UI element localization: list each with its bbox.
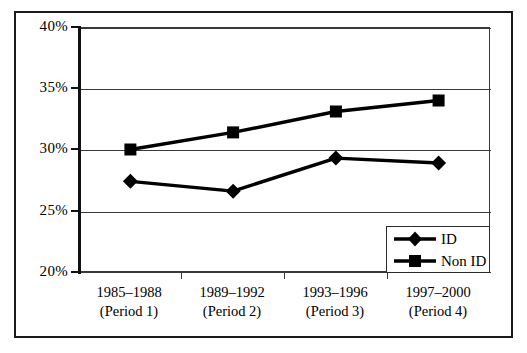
- y-axis-label-35: 35%: [8, 80, 68, 95]
- gridline-30: [80, 150, 491, 151]
- x-tick-1: [284, 272, 285, 279]
- chart-legend: ID Non ID: [386, 226, 490, 273]
- x-axis-label-period-4: 1997–2000 (Period 4): [373, 283, 503, 321]
- gridline-25: [80, 212, 491, 213]
- y-tick-20: [71, 271, 81, 273]
- y-tick-30: [71, 148, 81, 150]
- y-tick-35: [71, 87, 81, 89]
- legend-entry-id: ID: [387, 228, 491, 250]
- gridline-40: [80, 28, 491, 29]
- y-axis-label-40: 40%: [8, 19, 68, 34]
- legend-label-non-id: Non ID: [441, 252, 486, 270]
- x-tick-2: [387, 272, 388, 279]
- legend-marker-square-icon: [392, 250, 438, 272]
- x-label-line2: (Period 4): [373, 302, 503, 321]
- x-label-line1: 1989–1992: [199, 284, 264, 300]
- legend-entry-non-id: Non ID: [387, 250, 491, 272]
- gridline-35: [80, 89, 491, 90]
- legend-marker-diamond-icon: [392, 228, 438, 250]
- x-tick-0: [181, 272, 182, 279]
- legend-label-id: ID: [441, 230, 457, 248]
- x-label-line1: 1997–2000: [405, 284, 470, 300]
- y-axis-label-25: 25%: [8, 203, 68, 218]
- y-axis-line: [78, 26, 81, 274]
- x-label-line1: 1985–1988: [96, 284, 161, 300]
- y-axis-label-20: 20%: [8, 264, 68, 279]
- y-axis-label-30: 30%: [8, 141, 68, 156]
- y-tick-40: [71, 26, 81, 28]
- y-tick-25: [71, 210, 81, 212]
- chart-figure: 40% 35% 30% 25% 20% 1985–1988 (Period 1)…: [0, 0, 527, 353]
- x-label-line1: 1993–1996: [302, 284, 367, 300]
